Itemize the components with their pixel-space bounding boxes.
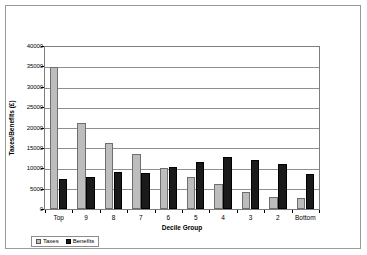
x-axis-tick-label: 7 bbox=[127, 214, 154, 221]
bar-taxes-6 bbox=[160, 168, 169, 209]
legend-item-benefits: Benefits bbox=[66, 238, 95, 244]
x-axis-tick-mark bbox=[72, 210, 73, 213]
x-axis-tick-mark bbox=[237, 210, 238, 213]
bar-group bbox=[264, 47, 291, 209]
bar-group bbox=[100, 47, 127, 209]
x-axis-tick-label: Top bbox=[45, 214, 72, 221]
bar-benefits-6 bbox=[169, 167, 178, 209]
x-axis-title: Decile Group bbox=[44, 224, 320, 231]
bar-taxes-3 bbox=[242, 192, 251, 209]
bar-benefits-bottom bbox=[306, 174, 315, 209]
legend-item-taxes: Taxes bbox=[36, 238, 59, 244]
bar-group bbox=[45, 47, 72, 209]
chart-legend: TaxesBenefits bbox=[31, 236, 99, 247]
bar-benefits-3 bbox=[251, 160, 260, 209]
bar-benefits-9 bbox=[86, 177, 95, 209]
x-axis-tick-label: 9 bbox=[72, 214, 99, 221]
legend-swatch-benefits-icon bbox=[66, 239, 71, 244]
x-axis-tick-mark bbox=[292, 210, 293, 213]
bar-series-layer bbox=[45, 47, 319, 209]
bar-taxes-top bbox=[50, 67, 59, 209]
x-axis-tick-label: 4 bbox=[209, 214, 236, 221]
bar-group bbox=[72, 47, 99, 209]
x-axis-tick-label: 6 bbox=[155, 214, 182, 221]
x-axis-tick-label: Bottom bbox=[292, 214, 319, 221]
bar-benefits-7 bbox=[141, 173, 150, 209]
bar-taxes-bottom bbox=[297, 198, 306, 209]
x-axis-tick-mark bbox=[155, 210, 156, 213]
bar-benefits-5 bbox=[196, 162, 205, 209]
x-axis-tick-mark bbox=[45, 210, 46, 213]
legend-swatch-taxes-icon bbox=[36, 239, 41, 244]
bar-group bbox=[155, 47, 182, 209]
bar-group bbox=[292, 47, 319, 209]
y-axis-title: Taxes/Benefits (£) bbox=[8, 0, 15, 78]
x-axis-tick-mark bbox=[264, 210, 265, 213]
x-axis-tick-mark bbox=[100, 210, 101, 213]
bar-group bbox=[182, 47, 209, 209]
bar-taxes-9 bbox=[77, 123, 86, 209]
legend-label: Taxes bbox=[43, 238, 59, 244]
bar-group bbox=[127, 47, 154, 209]
x-axis-tick-label: 2 bbox=[264, 214, 291, 221]
x-axis-tick-mark bbox=[319, 210, 320, 213]
x-axis-tick-mark bbox=[209, 210, 210, 213]
chart-screenshot: Taxes/Benefits (£) 400003500030000250002… bbox=[0, 0, 367, 255]
x-axis-tick-label: 8 bbox=[100, 214, 127, 221]
bar-taxes-4 bbox=[214, 184, 223, 209]
bar-benefits-top bbox=[59, 179, 68, 209]
x-axis-tick-mark bbox=[127, 210, 128, 213]
bar-benefits-4 bbox=[223, 157, 232, 209]
bar-benefits-2 bbox=[278, 164, 287, 209]
bar-taxes-8 bbox=[105, 143, 114, 209]
bar-taxes-7 bbox=[132, 154, 141, 209]
x-axis-tick-label: 5 bbox=[182, 214, 209, 221]
x-axis-tick-label: 3 bbox=[237, 214, 264, 221]
bar-taxes-2 bbox=[269, 197, 278, 209]
bar-benefits-8 bbox=[114, 172, 123, 209]
bar-taxes-5 bbox=[187, 177, 196, 209]
bar-group bbox=[209, 47, 236, 209]
x-axis-tick-mark bbox=[182, 210, 183, 213]
y-axis-title-label: Taxes/Benefits (£) bbox=[8, 78, 15, 178]
legend-label: Benefits bbox=[73, 238, 95, 244]
bar-group bbox=[237, 47, 264, 209]
